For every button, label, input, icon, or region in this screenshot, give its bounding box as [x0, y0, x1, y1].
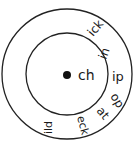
- word-wheel: ch ick in ip op at eck ild: [0, 0, 134, 143]
- ending-7: ild: [42, 121, 55, 134]
- center-label: ch: [78, 67, 95, 83]
- ending-4: op: [107, 91, 127, 111]
- ending-3: ip: [112, 69, 124, 84]
- ending-2: in: [96, 46, 113, 61]
- center-pivot-dot: [63, 71, 71, 79]
- ending-6: eck: [74, 114, 92, 137]
- ending-5: at: [94, 104, 113, 122]
